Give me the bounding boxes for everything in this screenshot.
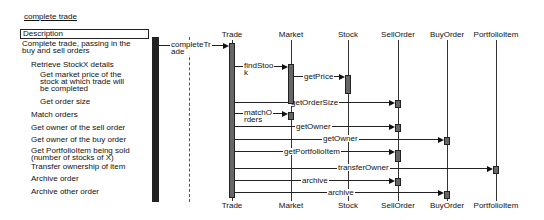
message-label: getPortfolioItem: [283, 148, 341, 155]
lifeline-line: [447, 40, 448, 201]
message-label: getOwner: [322, 135, 359, 142]
description-step: Get PortfolioItem being sold (number of …: [31, 147, 130, 161]
diagram-title: complete trade: [24, 12, 77, 21]
lifeline-line: [398, 40, 399, 201]
description-step: Complete trade, passing in the buy and s…: [22, 40, 131, 54]
activation-sellorder-getowner: [395, 124, 401, 132]
lifeline-line: [496, 40, 497, 201]
description-step: Get owner of the buy order: [31, 136, 126, 143]
message-label: findStoo k: [243, 62, 274, 76]
activation-market-matchorders: [288, 112, 294, 120]
separator-dashed-line: [189, 37, 190, 202]
lifeline-head-top: PortfolioItem: [461, 30, 531, 39]
message-label: getOrderSize: [290, 99, 339, 106]
activation-sellorder-getordersize: [395, 100, 401, 108]
description-step: Get order size: [40, 98, 90, 105]
description-step: Match orders: [31, 111, 78, 118]
activation-sellorder-archive: [395, 178, 401, 186]
script-bar: [152, 37, 159, 202]
description-step: Retrieve StockX details: [31, 61, 114, 68]
message-label: archive: [301, 177, 329, 184]
activation-portfolioitem-transfer: [493, 166, 499, 174]
activation-stock-getprice: [345, 75, 351, 94]
lifeline-head-bottom: PortfolioItem: [461, 201, 531, 210]
lifeline-line: [348, 40, 349, 201]
description-step: Transfer ownership of item: [31, 163, 125, 170]
description-step: Get owner of the sell order: [31, 124, 125, 131]
activation-market-findstock: [288, 64, 294, 104]
message-label: archive: [327, 189, 355, 196]
description-step: Get market price of the stock at which t…: [40, 71, 124, 92]
message-label: completeTr ade: [170, 41, 212, 55]
activation-buyorder-getowner: [444, 137, 450, 145]
message-label: matchO rders: [243, 109, 273, 123]
activation-trade: [229, 43, 235, 198]
activation-sellorder-getportfolioitem: [395, 150, 401, 162]
description-step: Archive order: [31, 175, 79, 182]
message-label: transferOwner: [337, 164, 390, 171]
message-label: getOwner: [295, 123, 332, 130]
activation-buyorder-archive: [444, 191, 450, 199]
description-step: Archive other order: [31, 188, 99, 195]
description-header: Description: [20, 29, 149, 39]
message-label: getPrice: [303, 73, 334, 80]
